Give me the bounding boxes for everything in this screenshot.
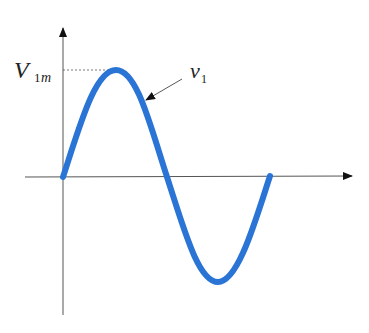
curve-label-pointer xyxy=(146,79,182,100)
svg-text:1: 1 xyxy=(201,72,207,86)
curve-label: v 1 xyxy=(190,58,207,86)
svg-text:v: v xyxy=(190,58,200,83)
sine-wave-diagram: V 1 m v 1 xyxy=(0,0,369,333)
svg-text:1: 1 xyxy=(34,70,41,85)
x-axis xyxy=(25,176,352,177)
svg-text:m: m xyxy=(41,70,51,85)
svg-text:V: V xyxy=(14,57,31,83)
amplitude-label: V 1 m xyxy=(14,57,51,85)
